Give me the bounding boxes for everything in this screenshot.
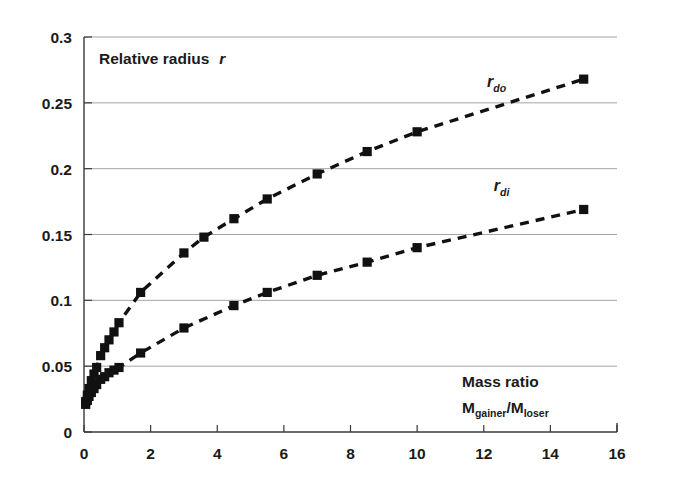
y-tick-label-0.15: 0.15 [42, 227, 73, 244]
data-point-r_do [579, 75, 588, 84]
x-tick-label-8: 8 [346, 445, 355, 462]
data-point-r_di [313, 271, 322, 280]
data-point-r_do [179, 248, 188, 257]
data-point-r_do [109, 327, 118, 336]
x-tick-label-6: 6 [280, 445, 289, 462]
data-point-r_di [229, 301, 238, 310]
x-tick-label-14: 14 [542, 445, 560, 462]
chart-page: 0246810121416 00.050.10.150.20.250.3 Rel… [0, 0, 691, 484]
y-tick-label-0: 0 [63, 424, 72, 441]
y-tick-label-0.2: 0.2 [50, 161, 72, 178]
y-tick-label-0.25: 0.25 [42, 95, 73, 112]
y-tick-label-0.05: 0.05 [42, 358, 73, 375]
data-point-r_do [104, 335, 113, 344]
plot-annotation-relative-radius: Relative radiusr [99, 50, 226, 67]
x-tick-label-0: 0 [80, 445, 89, 462]
data-point-r_di [413, 243, 422, 252]
relative-radius-chart: 0246810121416 00.050.10.150.20.250.3 Rel… [0, 0, 691, 484]
data-point-r_do [199, 233, 208, 242]
x-tick-label-10: 10 [409, 445, 426, 462]
data-point-r_di [263, 288, 272, 297]
x-tick-label-4: 4 [213, 445, 222, 462]
data-point-r_do [313, 169, 322, 178]
data-point-r_di [114, 363, 123, 372]
data-point-r_do [92, 363, 101, 372]
data-point-r_di [179, 323, 188, 332]
y-tick-label-0.1: 0.1 [50, 292, 72, 309]
chart-background [0, 0, 691, 484]
x-axis-label-line1: Mass ratio [462, 373, 539, 390]
data-point-r_di [136, 348, 145, 357]
x-tick-label-16: 16 [608, 445, 626, 462]
data-point-r_do [263, 194, 272, 203]
data-point-r_do [363, 147, 372, 156]
data-point-r_do [413, 127, 422, 136]
data-point-r_do [100, 343, 109, 352]
data-point-r_di [363, 258, 372, 267]
x-tick-label-12: 12 [475, 445, 492, 462]
data-point-r_do [114, 318, 123, 327]
data-point-r_do [136, 288, 145, 297]
y-tick-label-0.3: 0.3 [50, 29, 72, 46]
data-point-r_do [229, 214, 238, 223]
data-point-r_do [96, 351, 105, 360]
x-tick-label-2: 2 [146, 445, 155, 462]
data-point-r_di [579, 205, 588, 214]
